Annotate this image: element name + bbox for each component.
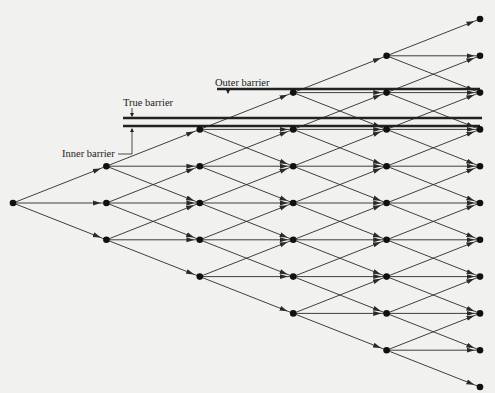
tree-node bbox=[477, 384, 484, 391]
tree-node bbox=[290, 310, 297, 317]
tree-node bbox=[383, 89, 390, 96]
tree-node bbox=[290, 126, 297, 133]
tree-node bbox=[383, 273, 390, 280]
tree-node bbox=[290, 89, 297, 96]
tree-node bbox=[383, 237, 390, 244]
tree-node bbox=[103, 237, 110, 244]
tree-node bbox=[197, 237, 204, 244]
tree-branch bbox=[293, 313, 386, 350]
tree-node bbox=[477, 89, 484, 96]
tree-node bbox=[103, 200, 110, 207]
tree-node bbox=[103, 163, 110, 170]
tree-node bbox=[290, 273, 297, 280]
tree-node bbox=[383, 347, 390, 354]
tree-node bbox=[383, 310, 390, 317]
tree-node bbox=[10, 200, 17, 207]
tree-branch bbox=[200, 93, 293, 130]
tree-branch bbox=[106, 129, 199, 166]
tree-node bbox=[197, 126, 204, 133]
outer-barrier-label: Outer barrier bbox=[215, 77, 270, 88]
inner-barrier-label: Inner barrier bbox=[62, 148, 115, 159]
tree-node bbox=[477, 53, 484, 60]
tree-node bbox=[477, 347, 484, 354]
tree-node bbox=[383, 163, 390, 170]
tree-branch bbox=[106, 240, 199, 277]
tree-node bbox=[477, 163, 484, 170]
tree-node bbox=[290, 200, 297, 207]
tree-edges bbox=[13, 19, 480, 387]
tree-node bbox=[290, 163, 297, 170]
tree-node bbox=[383, 126, 390, 133]
true-barrier-label: True barrier bbox=[123, 97, 174, 108]
tree-node bbox=[383, 53, 390, 60]
tree-node bbox=[477, 273, 484, 280]
tree-node bbox=[477, 16, 484, 23]
tree-node bbox=[477, 126, 484, 133]
tree-node bbox=[477, 310, 484, 317]
tree-node bbox=[383, 200, 390, 207]
barrier-lines bbox=[123, 89, 482, 126]
tree-node bbox=[477, 237, 484, 244]
tree-node bbox=[197, 273, 204, 280]
trinomial-tree-diagram: Outer barrier True barrier Inner barrier bbox=[0, 0, 495, 393]
tree-node bbox=[197, 163, 204, 170]
tree-node bbox=[197, 200, 204, 207]
tree-node bbox=[290, 237, 297, 244]
tree-node bbox=[477, 200, 484, 207]
